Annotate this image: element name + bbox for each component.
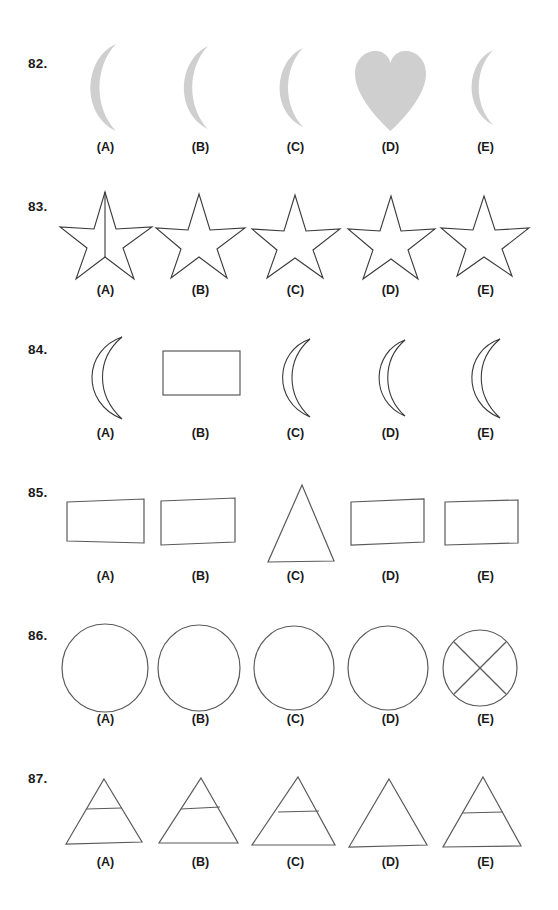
option-87-A[interactable]: (A) bbox=[58, 745, 153, 888]
option-83-C[interactable]: (C) bbox=[248, 173, 343, 316]
option-label: (D) bbox=[343, 855, 438, 869]
rectangle-outline-icon bbox=[438, 461, 533, 569]
circle-outline-icon bbox=[343, 604, 438, 712]
option-87-C[interactable]: (C) bbox=[248, 745, 343, 888]
question-row-83: 83. (A) (B) (C bbox=[0, 173, 558, 316]
rectangle-outline-icon bbox=[153, 318, 248, 426]
option-85-D[interactable]: (D) bbox=[343, 459, 438, 602]
option-label: (B) bbox=[153, 283, 248, 297]
option-84-E[interactable]: (E) bbox=[438, 316, 533, 459]
option-86-C[interactable]: (C) bbox=[248, 602, 343, 745]
crescent-outline-icon bbox=[438, 318, 533, 426]
rectangle-outline-icon bbox=[58, 461, 153, 569]
circle-outline-icon bbox=[153, 604, 248, 712]
worksheet-page: 82. (A) (B) (C) bbox=[0, 0, 558, 910]
circle-with-x-icon bbox=[438, 604, 533, 712]
option-label: (C) bbox=[248, 569, 343, 583]
option-82-C[interactable]: (C) bbox=[248, 30, 343, 173]
option-87-E[interactable]: (E) bbox=[438, 745, 533, 888]
question-number: 87. bbox=[28, 771, 47, 786]
option-85-C[interactable]: (C) bbox=[248, 459, 343, 602]
triangle-with-crossbar-icon bbox=[438, 747, 533, 855]
circle-outline-icon bbox=[58, 604, 153, 712]
question-number: 86. bbox=[28, 628, 47, 643]
crescent-filled-icon bbox=[153, 32, 248, 140]
triangle-with-crossbar-icon bbox=[58, 747, 153, 855]
star-outline-icon bbox=[438, 175, 533, 283]
crescent-filled-icon bbox=[438, 32, 533, 140]
option-83-B[interactable]: (B) bbox=[153, 173, 248, 316]
option-85-A[interactable]: (A) bbox=[58, 459, 153, 602]
option-84-A[interactable]: (A) bbox=[58, 316, 153, 459]
option-label: (A) bbox=[58, 283, 153, 297]
option-83-A[interactable]: (A) bbox=[58, 173, 153, 316]
option-label: (D) bbox=[343, 426, 438, 440]
question-number: 84. bbox=[28, 342, 47, 357]
option-label: (B) bbox=[153, 712, 248, 726]
option-label: (B) bbox=[153, 569, 248, 583]
option-86-D[interactable]: (D) bbox=[343, 602, 438, 745]
option-86-B[interactable]: (B) bbox=[153, 602, 248, 745]
option-84-D[interactable]: (D) bbox=[343, 316, 438, 459]
triangle-with-crossbar-icon bbox=[153, 747, 248, 855]
triangle-outline-icon bbox=[343, 747, 438, 855]
question-row-87: 87. (A) (B) bbox=[0, 745, 558, 888]
question-number: 82. bbox=[28, 56, 47, 71]
option-label: (D) bbox=[343, 569, 438, 583]
option-label: (C) bbox=[248, 283, 343, 297]
option-label: (E) bbox=[438, 855, 533, 869]
question-row-82: 82. (A) (B) (C) bbox=[0, 30, 558, 173]
crescent-filled-icon bbox=[58, 32, 153, 140]
option-label: (D) bbox=[343, 283, 438, 297]
question-row-85: 85. (A) (B) (C) bbox=[0, 459, 558, 602]
crescent-outline-icon bbox=[58, 318, 153, 426]
option-86-E[interactable]: (E) bbox=[438, 602, 533, 745]
rectangle-outline-icon bbox=[153, 461, 248, 569]
option-82-B[interactable]: (B) bbox=[153, 30, 248, 173]
star-outline-icon bbox=[248, 175, 343, 283]
option-label: (E) bbox=[438, 426, 533, 440]
option-label: (A) bbox=[58, 569, 153, 583]
option-label: (E) bbox=[438, 140, 533, 154]
option-label: (E) bbox=[438, 712, 533, 726]
question-number: 85. bbox=[28, 485, 47, 500]
star-outline-icon bbox=[343, 175, 438, 283]
star-outline-with-line-icon bbox=[58, 175, 153, 283]
crescent-outline-icon bbox=[343, 318, 438, 426]
option-label: (B) bbox=[153, 140, 248, 154]
circle-outline-icon bbox=[248, 604, 343, 712]
option-85-B[interactable]: (B) bbox=[153, 459, 248, 602]
option-label: (A) bbox=[58, 426, 153, 440]
triangle-with-crossbar-icon bbox=[248, 747, 343, 855]
star-outline-icon bbox=[153, 175, 248, 283]
option-82-E[interactable]: (E) bbox=[438, 30, 533, 173]
option-87-D[interactable]: (D) bbox=[343, 745, 438, 888]
option-label: (D) bbox=[343, 140, 438, 154]
question-number: 83. bbox=[28, 199, 47, 214]
option-label: (C) bbox=[248, 855, 343, 869]
option-83-E[interactable]: (E) bbox=[438, 173, 533, 316]
option-86-A[interactable]: (A) bbox=[58, 602, 153, 745]
option-label: (C) bbox=[248, 140, 343, 154]
option-82-A[interactable]: (A) bbox=[58, 30, 153, 173]
option-label: (A) bbox=[58, 140, 153, 154]
option-label: (A) bbox=[58, 855, 153, 869]
option-84-C[interactable]: (C) bbox=[248, 316, 343, 459]
question-row-86: 86. (A) (B) (C) bbox=[0, 602, 558, 745]
question-row-84: 84. (A) (B) (C) bbox=[0, 316, 558, 459]
option-label: (B) bbox=[153, 855, 248, 869]
option-82-D[interactable]: (D) bbox=[343, 30, 438, 173]
option-87-B[interactable]: (B) bbox=[153, 745, 248, 888]
rectangle-outline-icon bbox=[343, 461, 438, 569]
heart-filled-icon bbox=[343, 32, 438, 140]
crescent-filled-icon bbox=[248, 32, 343, 140]
option-label: (C) bbox=[248, 426, 343, 440]
option-83-D[interactable]: (D) bbox=[343, 173, 438, 316]
option-84-B[interactable]: (B) bbox=[153, 316, 248, 459]
triangle-outline-icon bbox=[248, 461, 343, 569]
option-label: (A) bbox=[58, 712, 153, 726]
option-label: (E) bbox=[438, 569, 533, 583]
option-label: (D) bbox=[343, 712, 438, 726]
option-label: (C) bbox=[248, 712, 343, 726]
option-85-E[interactable]: (E) bbox=[438, 459, 533, 602]
